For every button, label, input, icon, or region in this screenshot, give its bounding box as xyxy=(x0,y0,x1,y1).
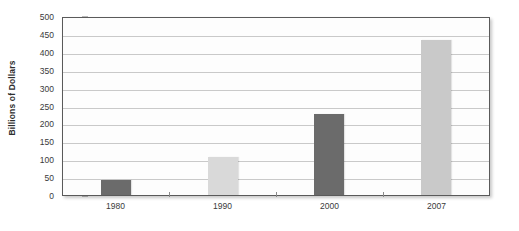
y-axis-title: Billions of Dollars xyxy=(0,0,24,196)
y-axis-tick-label: 500 xyxy=(40,12,54,22)
y-axis-tick-label: 100 xyxy=(40,155,54,165)
x-axis-tick-mark xyxy=(276,192,277,197)
y-axis-tick-labels: 050100150200250300350400450500 xyxy=(24,17,58,196)
y-axis-tick-label: 150 xyxy=(40,137,54,147)
y-axis-tick-label: 0 xyxy=(49,191,54,201)
y-axis-title-label: Billions of Dollars xyxy=(7,60,17,135)
x-axis-tick-label: 2007 xyxy=(383,201,490,217)
y-axis-tick-label: 350 xyxy=(40,66,54,76)
plot-area xyxy=(62,17,490,196)
x-axis-tick-mark xyxy=(383,192,384,197)
y-axis-tick-label: 300 xyxy=(40,84,54,94)
bar-slot xyxy=(63,18,170,195)
y-axis-tick-label: 450 xyxy=(40,30,54,40)
y-axis-tick-label: 50 xyxy=(45,173,54,183)
x-axis-tick-label: 2000 xyxy=(276,201,383,217)
bar-slot xyxy=(383,18,490,195)
x-axis-tick-label: 1990 xyxy=(169,201,276,217)
x-axis-tick-labels: 1980199020002007 xyxy=(62,201,490,217)
y-axis-tick-label: 400 xyxy=(40,48,54,58)
bar-slot xyxy=(170,18,277,195)
bar-1990 xyxy=(208,157,238,195)
bar-2000 xyxy=(314,114,344,195)
bar-slot xyxy=(276,18,383,195)
bars-container xyxy=(63,18,489,195)
y-axis-tick-label: 200 xyxy=(40,119,54,129)
x-axis-tick-mark xyxy=(169,192,170,197)
x-axis-tick-label: 1980 xyxy=(62,201,169,217)
y-axis-tick-label: 250 xyxy=(40,102,54,112)
bar-1980 xyxy=(101,180,131,195)
bar-chart-figure: Billions of Dollars 05010015020025030035… xyxy=(0,0,519,231)
bar-2007 xyxy=(421,40,451,195)
